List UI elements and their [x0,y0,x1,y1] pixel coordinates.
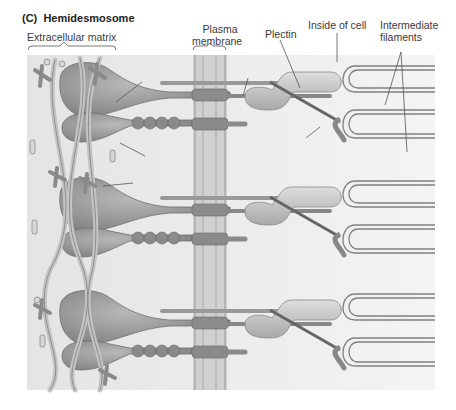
plasma-membrane [193,55,227,390]
label-intermediate-filaments-line2: filaments [380,31,438,43]
label-plectin: Plectin [265,28,297,40]
label-bp180: BP180 [240,66,272,78]
label-laminin: Laminin [135,176,172,188]
label-plasma-membrane: Plasma membrane [192,23,242,47]
hemidesmosome-diagram [0,0,456,410]
beta4-text: integrin [135,70,172,82]
leader-lines [28,33,407,186]
matrix-particles [30,59,115,347]
alpha6-text: integrin [139,149,176,161]
label-intermediate-filaments: Intermediate filaments [380,19,438,43]
laminin-crosses [35,64,115,384]
label-beta4-integrin: β4 integrin [125,70,172,87]
label-plasma-membrane-line1: Plasma [192,23,242,35]
label-plasma-membrane-line2: membrane [192,35,242,47]
figure-title: (C) Hemidesmosome [22,12,135,24]
panel-label: (C) [22,12,37,24]
label-intermediate-filaments-line1: Intermediate [380,19,438,31]
label-inside-of-cell: Inside of cell [308,19,366,31]
label-extracellular-matrix: Extracellular matrix [27,31,116,43]
label-alpha6-integrin: α6 integrin [129,149,176,166]
label-bp230: BP230 [287,141,319,153]
cell-background [27,55,435,390]
laminin-fibers [44,58,102,390]
figure-title-text: Hemidesmosome [43,12,134,24]
